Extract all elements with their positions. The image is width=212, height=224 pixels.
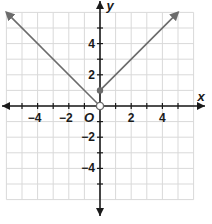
coordinate-plane: −4−22442−2−4Oxy — [0, 0, 212, 224]
y-tick-label: −2 — [81, 130, 95, 144]
y-tick-label: −4 — [81, 161, 95, 175]
ray-line — [100, 12, 178, 90]
x-tick-label: 4 — [159, 111, 166, 125]
y-tick-label: 2 — [88, 68, 95, 82]
y-axis-arrow-down-icon — [96, 208, 104, 216]
y-axis-label: y — [105, 0, 114, 13]
tick-labels: −4−22442−2−4Oxy — [28, 0, 206, 175]
x-tick-label: −4 — [28, 111, 42, 125]
origin-label: O — [84, 110, 94, 125]
x-axis-label: x — [196, 89, 205, 104]
y-tick-label: 4 — [88, 37, 95, 51]
open-circle-marker — [96, 102, 103, 109]
closed-dot-marker — [97, 87, 103, 93]
x-tick-label: −2 — [59, 111, 73, 125]
y-axis-arrow-up-icon — [96, 1, 104, 9]
x-tick-label: 2 — [128, 111, 135, 125]
